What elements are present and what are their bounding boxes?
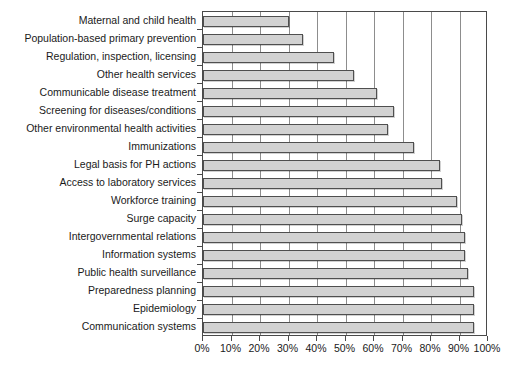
value-tick-label: 70% [391,343,412,354]
value-tick [402,336,403,341]
bar-row [203,124,486,135]
bar [203,142,414,153]
value-tick [202,336,203,341]
category-label: Preparedness planning [0,285,196,296]
value-axis-labels: 0%10%20%30%40%50%60%70%80%90%100% [202,343,487,357]
value-tick [231,336,232,341]
value-tick-label: 0% [194,343,209,354]
bar-chart: Maternal and child healthPopulation-base… [0,0,515,373]
bar [203,70,354,81]
bar-row [203,304,486,315]
value-tick [288,336,289,341]
bar [203,232,465,243]
bar [203,322,474,333]
category-label: Regulation, inspection, licensing [0,51,196,62]
bar [203,304,474,315]
bar-row [203,322,486,333]
bar-row [203,88,486,99]
bar [203,196,457,207]
category-label: Workforce training [0,195,196,206]
bar-row [203,214,486,225]
value-tick-label: 10% [220,343,241,354]
category-label: Epidemiology [0,303,196,314]
category-axis: Maternal and child healthPopulation-base… [0,11,196,336]
bar [203,160,440,171]
category-label: Other environmental health activities [0,123,196,134]
bar-row [203,160,486,171]
category-label: Communicable disease treatment [0,87,196,98]
bar-row [203,196,486,207]
value-tick [373,336,374,341]
bar-row [203,70,486,81]
category-label: Communication systems [0,321,196,332]
category-label: Information systems [0,249,196,260]
bar-row [203,250,486,261]
bar-row [203,34,486,45]
value-tick [259,336,260,341]
value-tick-label: 100% [474,343,501,354]
value-tick-label: 50% [334,343,355,354]
bar-row [203,286,486,297]
bar [203,250,465,261]
bar-row [203,106,486,117]
bar [203,124,388,135]
bar [203,16,289,27]
bar [203,88,377,99]
category-label: Public health surveillance [0,267,196,278]
bar [203,52,334,63]
bar-row [203,16,486,27]
category-label: Access to laboratory services [0,177,196,188]
value-tick-label: 90% [448,343,469,354]
category-label: Legal basis for PH actions [0,159,196,170]
category-label: Screening for diseases/conditions [0,105,196,116]
bars-layer [203,12,486,335]
bar [203,106,394,117]
value-tick [430,336,431,341]
bar-row [203,268,486,279]
category-label: Intergovernmental relations [0,231,196,242]
bar-row [203,52,486,63]
value-tick [487,336,488,341]
bar-row [203,178,486,189]
bar [203,286,474,297]
bar-row [203,232,486,243]
value-tick-label: 60% [362,343,383,354]
bar [203,214,462,225]
bar [203,268,468,279]
category-label: Population-based primary prevention [0,33,196,44]
bar-row [203,142,486,153]
category-label: Surge capacity [0,213,196,224]
value-tick-label: 20% [248,343,269,354]
value-tick [459,336,460,341]
category-label: Immunizations [0,141,196,152]
category-label: Maternal and child health [0,15,196,26]
value-tick [316,336,317,341]
bar [203,34,303,45]
value-tick-label: 30% [277,343,298,354]
value-tick-label: 40% [305,343,326,354]
value-tick [345,336,346,341]
plot-area [202,11,487,336]
value-tick-label: 80% [419,343,440,354]
bar [203,178,442,189]
category-label: Other health services [0,69,196,80]
